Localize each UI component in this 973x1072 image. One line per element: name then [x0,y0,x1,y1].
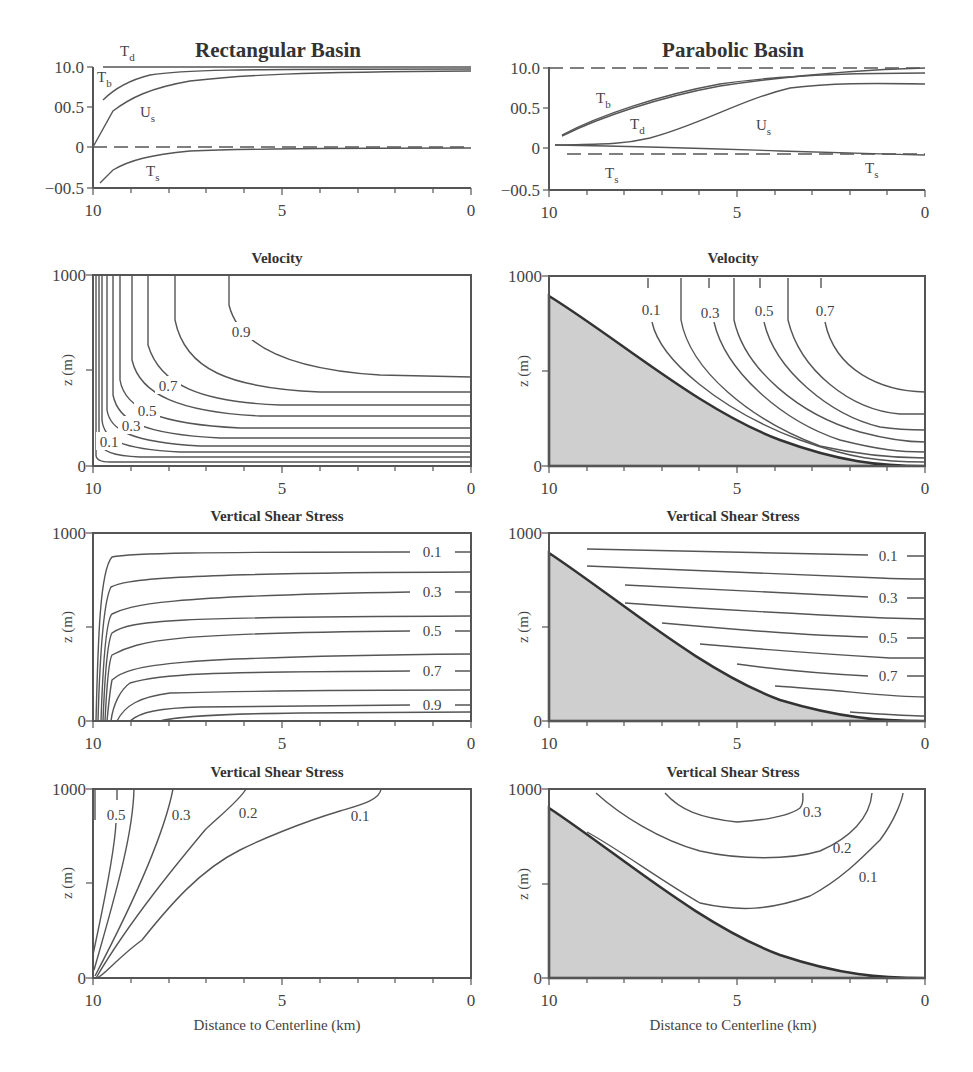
svg-text:0: 0 [921,991,930,1010]
svg-text:10: 10 [541,991,558,1010]
contour-label: 0.1 [351,808,370,824]
xlabel: Distance to Centerline (km) [649,1017,816,1034]
svg-text:1000: 1000 [508,267,542,286]
svg-text:5: 5 [278,991,287,1010]
contour-label: 0.3 [172,807,191,823]
svg-text:0: 0 [534,712,543,731]
panel-rect-top: Rectangular Basin 10.0 00.5 0 −00.5 10 5… [45,38,476,220]
xlabel: Distance to Centerline (km) [193,1017,360,1034]
svg-text:0: 0 [467,991,476,1010]
svg-text:10: 10 [541,203,558,222]
panel-rect-shear: Vertical Shear Stress 1000 0 10 5 0 z (m… [52,508,475,753]
panel-para-velocity: Velocity 1000 0 10 5 0 z (m) 0.1 0.3 0.5… [508,250,929,498]
contour-label: 0.2 [833,840,852,856]
ytick-0: 0 [76,138,85,157]
ylabel: z (m) [59,354,76,386]
contour-label: 0.3 [701,305,720,321]
xtick-10: 10 [85,201,102,220]
svg-text:00.5: 00.5 [510,99,540,118]
svg-text:z (m): z (m) [515,868,532,900]
contour-label: 0.1 [100,434,119,450]
curve-Td [562,68,925,136]
ytick-1-0: 10.0 [54,58,84,77]
contour-label: 0.3 [423,584,442,600]
title-parabolic-basin: Parabolic Basin [662,38,804,62]
contour-label: 0.1 [879,548,898,564]
svg-text:0: 0 [921,203,930,222]
svg-text:1000: 1000 [52,524,86,543]
contour-label: 0.5 [423,623,442,639]
contour-label: 0.1 [642,302,661,318]
contour-label: 0.1 [859,869,878,885]
svg-text:Velocity: Velocity [707,250,759,266]
svg-text:10: 10 [85,479,102,498]
svg-text:5: 5 [733,734,742,753]
contour-label: 0.7 [879,668,898,684]
contour-label: 0.3 [122,418,141,434]
contour-label: 0.7 [816,303,835,319]
velocity-contours [96,275,471,462]
shear-contours [96,552,471,721]
label-Td: Td [120,43,135,63]
svg-text:10.0: 10.0 [510,59,540,78]
svg-text:5: 5 [733,203,742,222]
contour-label: 0.7 [159,378,178,394]
label-Ts: Ts [146,163,159,183]
svg-text:10: 10 [541,479,558,498]
svg-text:0: 0 [467,479,476,498]
xtick-0: 0 [467,201,476,220]
svg-text:z (m): z (m) [515,611,532,643]
contour-label: 0.1 [423,544,442,560]
svg-text:z (m): z (m) [59,611,76,643]
contour-label: 0.5 [879,630,898,646]
svg-text:0: 0 [921,734,930,753]
svg-text:5: 5 [733,991,742,1010]
svg-text:0: 0 [532,139,541,158]
svg-text:Vertical Shear Stress: Vertical Shear Stress [210,764,343,780]
svg-text:0: 0 [78,969,87,988]
contour-label: 0.5 [107,807,126,823]
label-Tb: Tb [97,69,112,89]
svg-text:0: 0 [78,457,87,476]
svg-text:0: 0 [921,479,930,498]
contour-label: 0.9 [423,697,442,713]
title-rectangular-basin: Rectangular Basin [195,38,361,62]
label-Us: Us [756,117,771,137]
svg-text:5: 5 [278,479,287,498]
svg-text:5: 5 [733,479,742,498]
xtick-5: 5 [278,201,287,220]
contour-label: 0.5 [138,403,157,419]
svg-text:0: 0 [534,457,543,476]
contour-label: 0.5 [755,303,774,319]
panel-rect-shear-2: Vertical Shear Stress 1000 0 10 5 0 z (m… [52,764,475,1034]
svg-text:z (m): z (m) [59,867,76,899]
basin-bottom [549,808,925,978]
ytick-neg-0-5: −00.5 [45,179,84,198]
svg-text:10: 10 [85,991,102,1010]
svg-text:1000: 1000 [508,524,542,543]
figure: Rectangular Basin 10.0 00.5 0 −00.5 10 5… [0,0,973,1072]
svg-text:1000: 1000 [52,266,86,285]
label-Ts-left: Ts [605,165,618,185]
svg-text:−00.5: −00.5 [501,181,540,200]
svg-text:z (m): z (m) [515,355,532,387]
svg-text:1000: 1000 [508,780,542,799]
panel-rect-velocity: Velocity 1000 0 10 5 0 z (m) [52,250,475,498]
svg-text:0: 0 [78,712,87,731]
svg-text:1000: 1000 [52,780,86,799]
contour-label: 0.3 [803,804,822,820]
title-velocity: Velocity [251,250,303,266]
svg-text:Vertical Shear Stress: Vertical Shear Stress [666,764,799,780]
svg-text:Vertical Shear Stress: Vertical Shear Stress [666,508,799,524]
label-Tb: Tb [596,90,611,110]
contour-label: 0.9 [232,324,251,340]
panel-para-shear-2: Vertical Shear Stress 1000 0 10 5 0 z (m… [508,764,929,1034]
contour-label: 0.2 [239,805,258,821]
svg-text:10: 10 [541,734,558,753]
ytick-0-5: 00.5 [54,98,84,117]
svg-text:5: 5 [278,734,287,753]
label-Us: Us [140,104,155,124]
shear-contours [93,789,381,978]
svg-text:0: 0 [534,969,543,988]
label-Td: Td [630,116,645,136]
